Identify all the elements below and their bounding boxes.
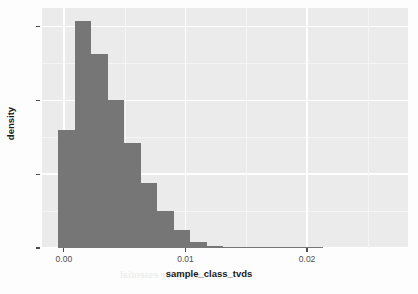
x-axis: sample_class_tvds 0.000.010.02 bbox=[0, 248, 418, 294]
histogram-bar bbox=[75, 21, 92, 248]
histogram-bar bbox=[157, 211, 174, 248]
x-axis-tick-label: 0.02 bbox=[299, 254, 316, 264]
gridline-major-horizontal bbox=[42, 26, 408, 27]
gridline-minor-vertical bbox=[368, 8, 369, 248]
y-axis-tick-mark bbox=[36, 100, 40, 101]
gridline-minor-vertical bbox=[246, 8, 247, 248]
x-axis-tick-mark bbox=[185, 248, 186, 252]
x-axis-tick-mark bbox=[306, 248, 307, 252]
histogram-bar bbox=[91, 54, 108, 248]
x-axis-tick-label: 0.01 bbox=[177, 254, 194, 264]
histogram-bar bbox=[124, 143, 141, 248]
y-axis-title: density bbox=[5, 94, 16, 154]
plot-panel bbox=[42, 8, 408, 248]
x-axis-tick-mark bbox=[63, 248, 64, 252]
x-axis-title: sample_class_tvds bbox=[0, 268, 418, 279]
y-axis-tick-mark bbox=[36, 26, 40, 27]
histogram-bar bbox=[108, 100, 125, 248]
gridline-major-vertical bbox=[185, 8, 186, 248]
histogram-bar bbox=[141, 183, 158, 248]
y-axis-tick-mark bbox=[36, 174, 40, 175]
histogram-bar bbox=[58, 130, 75, 248]
histogram-bar bbox=[174, 230, 191, 248]
gridline-major-vertical bbox=[306, 8, 307, 248]
histogram-figure: uniformity Levels oversampling used to s… bbox=[0, 0, 418, 294]
x-axis-tick-label: 0.00 bbox=[56, 254, 73, 264]
